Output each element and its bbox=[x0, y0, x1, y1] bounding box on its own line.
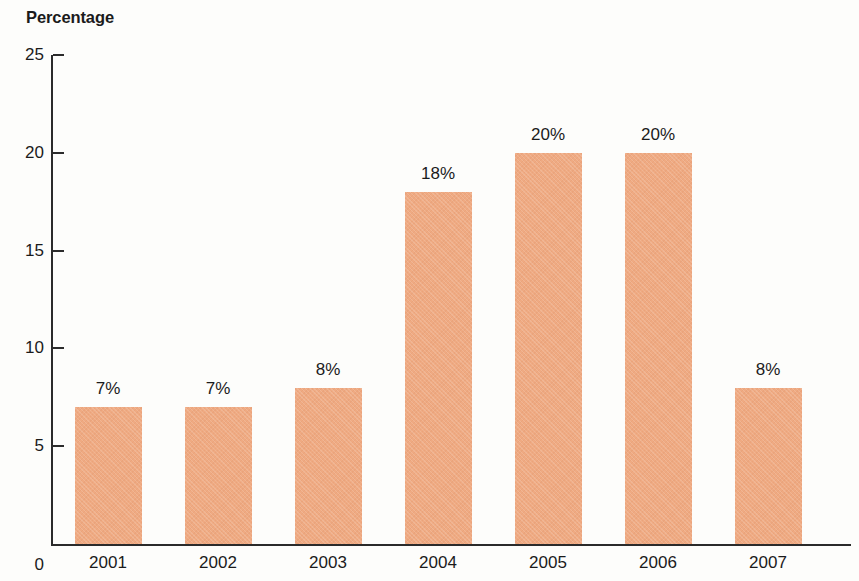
bar-2004[interactable] bbox=[405, 192, 472, 544]
y-axis-tick-label: 20 bbox=[2, 144, 44, 161]
bar-value-label-2007: 8% bbox=[728, 361, 808, 378]
y-axis-tick-label: 10 bbox=[2, 339, 44, 356]
bar-value-label-2001: 7% bbox=[68, 380, 148, 397]
x-axis-label-2005: 2005 bbox=[503, 554, 593, 571]
y-axis-line bbox=[51, 55, 53, 546]
y-axis-tick-label: 25 bbox=[2, 46, 44, 63]
x-axis-label-2006: 2006 bbox=[613, 554, 703, 571]
x-axis-line bbox=[51, 544, 851, 546]
y-axis-tick bbox=[53, 250, 64, 252]
x-axis-label-2001: 2001 bbox=[63, 554, 153, 571]
x-axis-label-2002: 2002 bbox=[173, 554, 263, 571]
y-axis-tick bbox=[53, 445, 64, 447]
y-axis-tick bbox=[53, 347, 64, 349]
x-axis-label-2007: 2007 bbox=[723, 554, 813, 571]
bar-2001[interactable] bbox=[75, 407, 142, 544]
bar-value-label-2003: 8% bbox=[288, 361, 368, 378]
bar-2005[interactable] bbox=[515, 153, 582, 544]
bar-value-label-2005: 20% bbox=[508, 126, 588, 143]
bar-chart: Percentage 510152025 0 7%7%8%18%20%20%8%… bbox=[0, 0, 859, 581]
y-axis-tick bbox=[53, 54, 64, 56]
y-axis-tick bbox=[53, 152, 64, 154]
bar-2003[interactable] bbox=[295, 388, 362, 544]
bar-2006[interactable] bbox=[625, 153, 692, 544]
y-axis-tick-label: 15 bbox=[2, 242, 44, 259]
y-axis-label-zero: 0 bbox=[2, 556, 44, 573]
chart-title: Percentage bbox=[26, 8, 114, 27]
bar-2002[interactable] bbox=[185, 407, 252, 544]
bar-value-label-2002: 7% bbox=[178, 380, 258, 397]
x-axis-label-2003: 2003 bbox=[283, 554, 373, 571]
bar-2007[interactable] bbox=[735, 388, 802, 544]
bar-value-label-2004: 18% bbox=[398, 165, 478, 182]
x-axis-label-2004: 2004 bbox=[393, 554, 483, 571]
y-axis-tick-label: 5 bbox=[2, 437, 44, 454]
bar-value-label-2006: 20% bbox=[618, 126, 698, 143]
